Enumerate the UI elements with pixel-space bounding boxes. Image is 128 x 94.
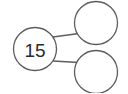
connector-whole-to-part-top — [53, 34, 79, 38]
number-bond-diagram: 15 — [0, 0, 128, 93]
connector-whole-to-part-bottom — [53, 61, 79, 63]
part-circle-bottom[interactable] — [75, 51, 118, 94]
whole-value-label: 15 — [24, 40, 45, 61]
number-bond-canvas: 15 — [0, 0, 128, 93]
part-circle-top[interactable] — [75, 2, 118, 45]
